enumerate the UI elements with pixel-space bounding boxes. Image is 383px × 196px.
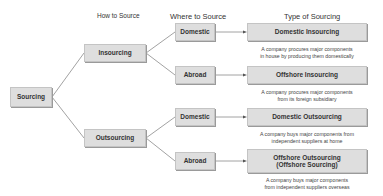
type-domestic-outsourcing: Domestic Outsourcing [247,108,367,126]
node-insourcing-abroad: Abroad [175,66,215,84]
node-outsourcing-domestic: Domestic [175,108,215,126]
type-offshore-insourcing: Offshore Insourcing [247,66,367,84]
desc-domestic-insourcing: A company procures major components in h… [237,46,377,60]
desc-offshore-outsourcing: A company buys major components from ind… [237,177,377,191]
type-domestic-insourcing: Domestic Insourcing [247,23,367,41]
node-outsourcing-abroad: Abroad [175,152,215,170]
node-sourcing: Sourcing [10,87,52,107]
type-offshore-outsourcing: Offshore Outsourcing (Offshore Sourcing) [247,149,367,173]
header-how-to-source: How to Source [97,12,140,19]
node-outsourcing: Outsourcing [84,129,146,147]
desc-domestic-outsourcing: A company buys major components from ind… [237,131,377,145]
desc-offshore-insourcing: A company procures major components from… [237,89,377,103]
header-type-of-sourcing: Type of Sourcing [284,12,340,21]
node-insourcing: Insourcing [84,44,146,62]
header-where-to-source: Where to Source [170,12,226,21]
node-insourcing-domestic: Domestic [175,23,215,41]
